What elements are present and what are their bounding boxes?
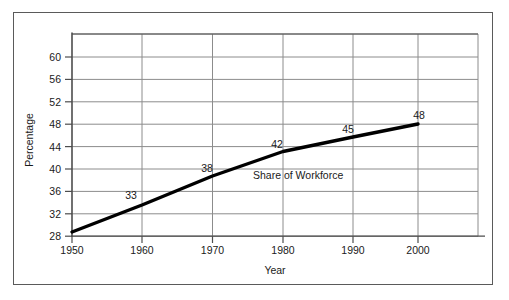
x-axis-tick-labels: 1950 1960 1970 1980 1990 2000 xyxy=(60,244,430,256)
y-tick-label-56: 56 xyxy=(49,73,61,85)
y-axis-title: Percentage xyxy=(23,113,35,167)
x-axis-tick-marks xyxy=(72,236,418,243)
y-tick-label-36: 36 xyxy=(49,185,61,197)
y-tick-label-52: 52 xyxy=(49,96,61,108)
y-tick-label-32: 32 xyxy=(49,208,61,220)
y-axis-tick-labels: 60 56 52 48 44 40 36 32 28 xyxy=(49,51,61,242)
data-label-48: 48 xyxy=(413,109,425,121)
y-tick-label-28: 28 xyxy=(49,230,61,242)
x-tick-label-1990: 1990 xyxy=(341,244,365,256)
x-tick-label-1970: 1970 xyxy=(201,244,225,256)
figure-root: 60 56 52 48 44 40 36 32 28 1950 1960 197… xyxy=(0,0,509,300)
y-tick-label-40: 40 xyxy=(49,163,61,175)
y-tick-label-60: 60 xyxy=(49,51,61,63)
axis-spines xyxy=(71,33,485,238)
y-axis-tick-marks xyxy=(65,57,72,236)
y-tick-label-48: 48 xyxy=(49,118,61,130)
data-label-45: 45 xyxy=(342,123,354,135)
series-annotation-label: Share of Workforce xyxy=(253,169,343,181)
data-label-38: 38 xyxy=(201,162,213,174)
line-chart: 60 56 52 48 44 40 36 32 28 1950 1960 197… xyxy=(0,0,509,300)
x-tick-label-1980: 1980 xyxy=(271,244,295,256)
vertical-gridlines xyxy=(142,34,478,236)
workforce-share-line xyxy=(72,124,418,232)
x-tick-label-2000: 2000 xyxy=(406,244,430,256)
horizontal-gridlines xyxy=(72,34,478,236)
x-axis-title: Year xyxy=(264,264,286,276)
x-tick-label-1950: 1950 xyxy=(60,244,84,256)
data-label-33: 33 xyxy=(125,189,137,201)
x-tick-label-1960: 1960 xyxy=(130,244,154,256)
y-tick-label-44: 44 xyxy=(49,141,61,153)
data-label-42: 42 xyxy=(271,138,283,150)
